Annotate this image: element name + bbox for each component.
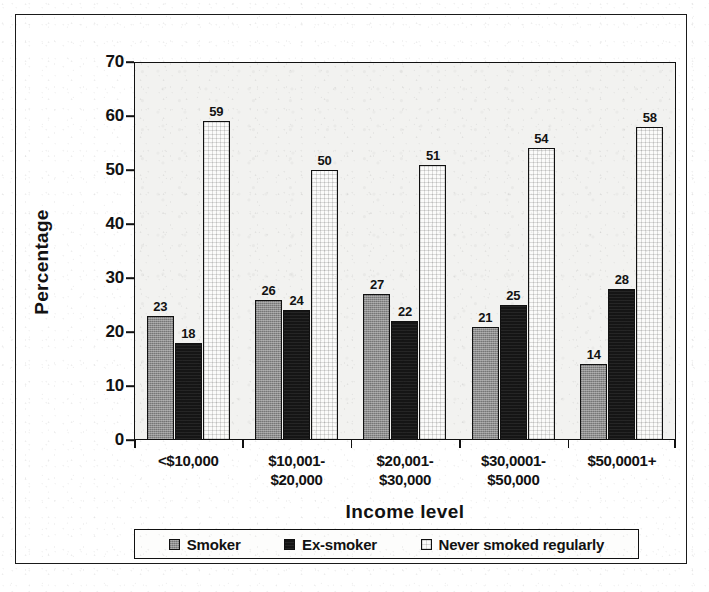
bar[interactable]: 58 <box>636 127 663 440</box>
y-axis-tick-mark <box>126 169 134 171</box>
bar-value-label: 59 <box>209 104 223 119</box>
x-axis-tick-mark <box>351 440 353 448</box>
y-axis-tick-mark <box>126 61 134 63</box>
bar-group: 272251 <box>351 62 459 440</box>
x-axis-tick-label-line: $20,000 <box>242 470 350 489</box>
x-axis-title: Income level <box>134 501 676 523</box>
y-axis-tick-label: 20 <box>105 322 124 342</box>
x-axis-tick-label-line: $50,0001+ <box>568 451 676 470</box>
y-axis-tick-mark <box>126 385 134 387</box>
bar-value-label: 26 <box>262 283 276 298</box>
x-axis-tick-label: $50,0001+ <box>568 451 676 470</box>
y-axis-tick-label: 60 <box>105 106 124 126</box>
y-axis-tick-label: 0 <box>115 430 124 450</box>
bar-value-label: 21 <box>478 310 492 325</box>
bar[interactable]: 50 <box>311 170 338 440</box>
bar-value-label: 23 <box>153 299 167 314</box>
bar[interactable]: 27 <box>363 294 390 440</box>
bar[interactable]: 21 <box>472 327 499 440</box>
x-axis-tick-label: $20,001-$30,000 <box>351 451 459 489</box>
bar[interactable]: 25 <box>500 305 527 440</box>
legend-item[interactable]: Smoker <box>169 536 241 553</box>
legend-item[interactable]: Ex-smoker <box>284 536 377 553</box>
x-axis-tick-label-line: $30,000 <box>351 470 459 489</box>
x-axis-tick-label-line: $30,0001- <box>459 451 567 470</box>
bar-value-label: 18 <box>181 326 195 341</box>
chart-legend: SmokerEx-smokerNever smoked regularly <box>134 529 639 559</box>
bars-layer: 231859262450272251212554142858 <box>134 62 676 440</box>
bar-value-label: 58 <box>643 110 657 125</box>
x-axis-tick-label: $30,0001-$50,000 <box>459 451 567 489</box>
bar[interactable]: 26 <box>255 300 282 440</box>
bar-group: 212554 <box>459 62 567 440</box>
legend-item[interactable]: Never smoked regularly <box>421 536 605 553</box>
bar[interactable]: 59 <box>203 121 230 440</box>
y-axis-tick-label: 40 <box>105 214 124 234</box>
y-axis-tick-mark <box>126 115 134 117</box>
figure-frame: Percentage 706050403020100 2318592624502… <box>15 14 687 564</box>
y-axis-tick-label: 10 <box>105 376 124 396</box>
legend-swatch-icon <box>421 539 432 550</box>
bar-value-label: 24 <box>290 293 304 308</box>
bar[interactable]: 14 <box>580 364 607 440</box>
x-axis-tick-label-line: $50,000 <box>459 470 567 489</box>
x-axis-tick-label-line: <$10,000 <box>134 451 242 470</box>
bar-value-label: 14 <box>587 347 601 362</box>
legend-item-label: Ex-smoker <box>302 536 377 553</box>
x-axis-tick-label-line: $20,001- <box>351 451 459 470</box>
bar[interactable]: 23 <box>147 316 174 440</box>
bar[interactable]: 22 <box>391 321 418 440</box>
bar-value-label: 28 <box>615 272 629 287</box>
x-axis-tick-label-line: $10,001- <box>242 451 350 470</box>
legend-item-label: Never smoked regularly <box>439 536 605 553</box>
y-axis-tick-mark <box>126 223 134 225</box>
y-axis-tick-mark <box>126 331 134 333</box>
bar-value-label: 50 <box>318 153 332 168</box>
y-axis-tick-label: 70 <box>105 52 124 72</box>
y-axis-tick-labels: 706050403020100 <box>76 15 124 592</box>
bar[interactable]: 54 <box>528 148 555 440</box>
y-axis-tick-mark <box>126 277 134 279</box>
x-axis-tick-marks <box>134 440 676 450</box>
x-axis-tick-mark <box>242 440 244 448</box>
y-axis-tick-label: 50 <box>105 160 124 180</box>
bar[interactable]: 18 <box>175 343 202 440</box>
x-axis-tick-label: $10,001-$20,000 <box>242 451 350 489</box>
bar-value-label: 54 <box>534 131 548 146</box>
x-axis-tick-mark <box>134 440 136 448</box>
x-axis-tick-mark <box>568 440 570 448</box>
legend-swatch-icon <box>284 539 295 550</box>
bar-value-label: 51 <box>426 148 440 163</box>
bar-value-label: 22 <box>398 304 412 319</box>
y-axis-tick-mark <box>126 439 134 441</box>
bar-group: 142858 <box>568 62 676 440</box>
y-axis-tick-label: 30 <box>105 268 124 288</box>
bar-group: 262450 <box>242 62 350 440</box>
y-axis-title: Percentage <box>31 152 53 372</box>
x-axis-tick-labels: <$10,000$10,001-$20,000$20,001-$30,000$3… <box>134 451 676 501</box>
bar[interactable]: 28 <box>608 289 635 440</box>
bar-group: 231859 <box>134 62 242 440</box>
legend-swatch-icon <box>169 539 180 550</box>
bar[interactable]: 51 <box>419 165 446 440</box>
bar-value-label: 25 <box>506 288 520 303</box>
x-axis-tick-label: <$10,000 <box>134 451 242 470</box>
x-axis-tick-mark <box>459 440 461 448</box>
bar[interactable]: 24 <box>283 310 310 440</box>
legend-item-label: Smoker <box>187 536 241 553</box>
bar-value-label: 27 <box>370 277 384 292</box>
x-axis-tick-mark <box>674 440 676 448</box>
